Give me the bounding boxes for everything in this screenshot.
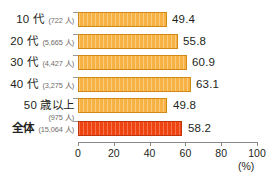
bar-value-label: 60.9 xyxy=(192,55,215,70)
x-axis-tick xyxy=(114,142,115,146)
bar-value-label: 63.1 xyxy=(196,77,219,92)
chart-row: 10 代 (722 人) 49.4 xyxy=(0,10,278,32)
category-label: 20 代 (5,665 人) xyxy=(0,32,74,48)
chart-row: 40 代 (3,275 人) 63.1 xyxy=(0,75,278,97)
x-axis-tick-label: 80 xyxy=(215,147,227,159)
chart-row: 50 歳以上 (975 人) 49.8 xyxy=(0,96,278,118)
bar-zentai xyxy=(78,121,182,136)
category-label: 10 代 (722 人) xyxy=(0,10,74,26)
category-count: (15,064 人) xyxy=(38,125,74,134)
bar-value-label: 58.2 xyxy=(188,121,211,136)
category-label: 40 代 (3,275 人) xyxy=(0,75,74,91)
bar-20dai xyxy=(78,34,178,49)
category-count: (3,275 人) xyxy=(42,81,74,90)
bar-value-label: 49.4 xyxy=(172,12,195,27)
bar-40dai xyxy=(78,77,191,92)
chart-row: 20 代 (5,665 人) 55.8 xyxy=(0,32,278,54)
bar-chart: 10 代 (722 人) 49.4 20 代 (5,665 人) 55.8 30… xyxy=(0,0,278,176)
category-name: 全体 xyxy=(12,122,34,134)
bar-10dai xyxy=(78,12,167,27)
category-label: 30 代 (4,427 人) xyxy=(0,53,74,69)
x-axis-tick xyxy=(221,142,222,146)
x-axis-tick-label: 60 xyxy=(180,147,192,159)
bar-30dai xyxy=(78,55,187,70)
category-label-total: 全体 (15,064 人) xyxy=(0,119,74,135)
bar-value-label: 49.8 xyxy=(173,98,196,113)
category-name: 10 代 xyxy=(16,13,44,25)
category-name: 20 代 xyxy=(10,35,38,47)
bar-50ijou xyxy=(78,98,167,113)
x-axis-tick xyxy=(78,142,79,146)
category-name: 30 代 xyxy=(10,56,38,68)
x-axis-tick-label: 0 xyxy=(75,147,81,159)
category-name: 40 代 xyxy=(10,78,38,90)
x-axis-tick-label: 20 xyxy=(108,147,120,159)
category-count: (5,665 人) xyxy=(42,38,74,47)
category-name: 50 歳以上 xyxy=(24,99,74,111)
category-count: (722 人) xyxy=(48,16,74,25)
x-axis-tick-label: 40 xyxy=(144,147,156,159)
x-axis-tick-label: 100 xyxy=(248,147,266,159)
x-axis-tick xyxy=(257,142,258,146)
x-axis-line xyxy=(78,142,257,143)
x-axis-unit-label: (%) xyxy=(238,160,254,172)
chart-row: 30 代 (4,427 人) 60.9 xyxy=(0,53,278,75)
x-axis-tick xyxy=(185,142,186,146)
chart-row-total: 全体 (15,064 人) 58.2 xyxy=(0,119,278,141)
category-count: (4,427 人) xyxy=(42,59,74,68)
x-axis-tick xyxy=(150,142,151,146)
bar-value-label: 55.8 xyxy=(183,34,206,49)
